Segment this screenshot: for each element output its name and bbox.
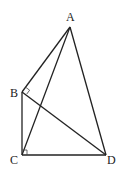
geometry-diagram: A B C D: [0, 0, 127, 174]
label-b: B: [10, 86, 18, 100]
segment-bd: [22, 92, 106, 155]
segment-ad: [70, 27, 106, 155]
label-d: D: [107, 153, 116, 167]
right-angle-mark-b: [26, 87, 30, 94]
label-c: C: [10, 153, 18, 167]
label-a: A: [66, 10, 75, 24]
segment-ab: [22, 27, 70, 92]
